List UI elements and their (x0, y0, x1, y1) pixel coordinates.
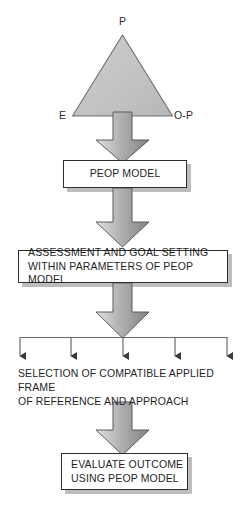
assessment-box: ASSESSMENT AND GOAL SETTING WITHIN PARAM… (18, 250, 228, 283)
triangle-apex-label-p: P (119, 16, 126, 27)
peop-model-box-label: PEOP MODEL (64, 167, 186, 181)
triangle-left-label-e: E (59, 110, 66, 121)
peop-flow-diagram: P E O-P PEOP MODEL ASSESSMENT AND GOAL S… (0, 0, 250, 507)
block-arrow-3 (96, 283, 149, 338)
branch-distribution (20, 338, 228, 357)
block-arrow-1 (96, 112, 149, 163)
evaluate-box-label: EVALUATE OUTCOME USING PEOP MODEL (62, 458, 183, 485)
evaluate-box: EVALUATE OUTCOME USING PEOP MODEL (61, 453, 188, 490)
block-arrow-4 (96, 402, 149, 455)
assessment-box-label: ASSESSMENT AND GOAL SETTING WITHIN PARAM… (19, 246, 227, 287)
selection-text: SELECTION OF COMPATIBLE APPLIED FRAME OF… (18, 366, 240, 408)
peop-triangle (73, 35, 173, 116)
triangle-right-label-op: O-P (174, 110, 193, 121)
peop-model-box: PEOP MODEL (63, 160, 187, 188)
block-arrow-2 (96, 188, 149, 247)
